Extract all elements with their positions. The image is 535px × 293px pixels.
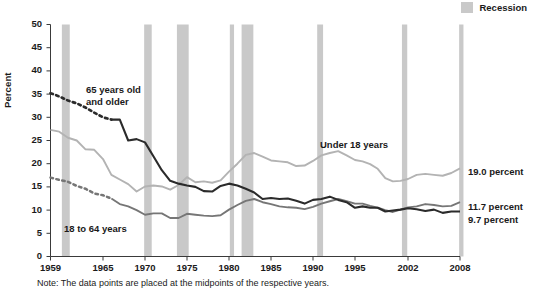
x-tick-label: 1965 <box>92 262 113 273</box>
poverty-rate-line-chart: Recession Percent 05101520253035404550 1… <box>0 0 535 293</box>
y-tick-label: 35 <box>20 88 42 99</box>
recession-band <box>459 25 463 257</box>
end-label-65-and-older: 9.7 percent <box>468 214 518 225</box>
legend-item-recession-label: Recession <box>479 2 527 13</box>
chart-note: Note: The data points are placed at the … <box>37 278 329 288</box>
series-label-65-and-older: 65 years old and older <box>86 84 141 107</box>
series-label-under-18: Under 18 years <box>320 139 388 151</box>
axis-lines-group <box>51 25 461 257</box>
recession-band <box>177 25 189 257</box>
y-tick-label: 10 <box>20 204 42 215</box>
recession-band <box>144 25 152 257</box>
recession-band <box>230 25 234 257</box>
y-tick-label: 45 <box>20 41 42 52</box>
recession-band <box>242 25 254 257</box>
y-axis-title: Percent <box>2 72 13 108</box>
axis-lines <box>51 25 461 257</box>
x-tick-label: 1975 <box>176 262 197 273</box>
recession-band-swatch <box>461 2 473 13</box>
x-tick-label: 1959 <box>40 262 61 273</box>
recession-band <box>402 25 407 257</box>
x-tick-label: 1990 <box>302 262 323 273</box>
end-label-18-to-64: 11.7 percent <box>468 201 523 212</box>
legend: Recession <box>461 2 527 13</box>
x-tick-label: 1980 <box>218 262 239 273</box>
y-tick-label: 15 <box>20 180 42 191</box>
plot-area <box>0 0 535 293</box>
recession-bands-group <box>62 25 464 257</box>
x-tick-label: 2002 <box>397 262 418 273</box>
data-series-group <box>51 93 461 218</box>
y-tick-label: 20 <box>20 157 42 168</box>
y-tick-label: 30 <box>20 111 42 122</box>
series-line-older <box>111 120 460 213</box>
end-label-under-18: 19.0 percent <box>468 166 523 177</box>
y-tick-label: 5 <box>20 227 42 238</box>
x-tick-label: 1985 <box>260 262 281 273</box>
series-line-under18 <box>51 130 461 192</box>
y-tick-label: 25 <box>20 134 42 145</box>
y-tick-label: 0 <box>20 250 42 261</box>
x-tick-label: 1995 <box>344 262 365 273</box>
x-tick-label: 1970 <box>134 262 155 273</box>
series-label-65-and-older-line2: and older <box>86 96 129 107</box>
y-tick-label: 40 <box>20 64 42 75</box>
x-tick-label: 2008 <box>449 262 470 273</box>
y-tick-label: 50 <box>20 18 42 29</box>
recession-band <box>62 25 70 257</box>
series-line-dashed-working_age <box>51 178 112 199</box>
series-label-65-and-older-line1: 65 years old <box>86 84 141 95</box>
series-label-18-to-64: 18 to 64 years <box>64 223 127 235</box>
